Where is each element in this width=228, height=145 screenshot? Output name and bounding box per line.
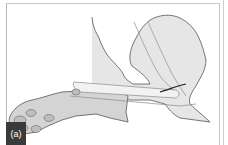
panel-label: (a) bbox=[6, 122, 26, 145]
anatomy-illustration bbox=[0, 0, 228, 145]
